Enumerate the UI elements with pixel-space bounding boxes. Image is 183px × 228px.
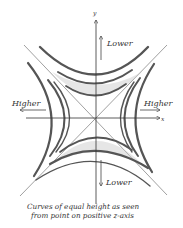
- asymptote-lines: [20, 45, 167, 196]
- label-left-higher: Higher: [11, 99, 42, 108]
- saddle-contour-diagram: y x Lower Lower Higher Higher Curves of …: [0, 0, 183, 228]
- label-top-lower: Lower: [106, 39, 134, 48]
- caption-line-1: Curves of equal height as seen: [27, 202, 140, 211]
- coordinate-axes: [26, 20, 160, 204]
- caption-line-2: from point on positive z-axis: [30, 211, 134, 220]
- y-axis-label: y: [92, 9, 97, 17]
- label-right-higher: Higher: [143, 99, 174, 108]
- label-bottom-lower: Lower: [105, 178, 133, 187]
- x-axis-label: x: [161, 115, 165, 122]
